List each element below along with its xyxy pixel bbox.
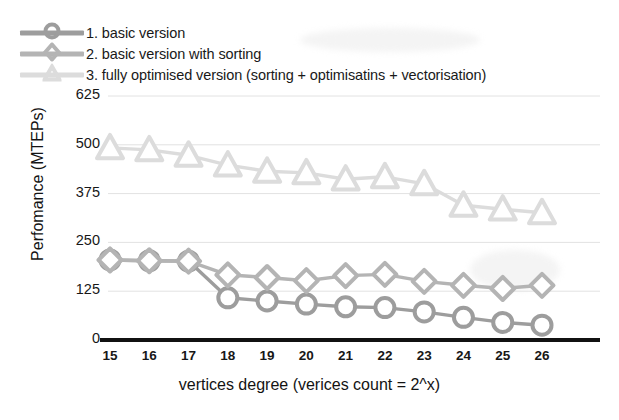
x-axis-title: vertices degree (verices count = 2^x) (0, 376, 619, 394)
x-axis-tick-label: 26 (527, 348, 557, 363)
y-axis-tick-label: 250 (58, 232, 100, 248)
y-axis-tick-label: 0 (58, 330, 100, 346)
chart-plot-area: 0125250375500625 15161718192021222324252… (0, 0, 619, 420)
x-axis-tick-label: 17 (174, 348, 204, 363)
x-axis-tick-label: 19 (252, 348, 282, 363)
x-axis-tick-label: 20 (291, 348, 321, 363)
x-axis-tick-label: 24 (448, 348, 478, 363)
x-axis-tick-label: 18 (213, 348, 243, 363)
y-axis-tick-label: 125 (58, 281, 100, 297)
y-axis-tick-label: 625 (58, 86, 100, 102)
x-axis-tick-label: 25 (488, 348, 518, 363)
chart-root: 1. basic version 2. basic version with s… (0, 0, 619, 420)
y-axis-title: Perfomance (MTEPs) (29, 84, 47, 284)
x-axis-tick-label: 22 (370, 348, 400, 363)
y-axis-tick-label: 500 (58, 135, 100, 151)
x-axis-tick-label: 16 (134, 348, 164, 363)
x-axis-tick-label: 15 (95, 348, 125, 363)
series-layer (97, 135, 555, 335)
y-axis-tick-label: 375 (58, 184, 100, 200)
x-axis-tick-label: 21 (331, 348, 361, 363)
x-axis-tick-label: 23 (409, 348, 439, 363)
